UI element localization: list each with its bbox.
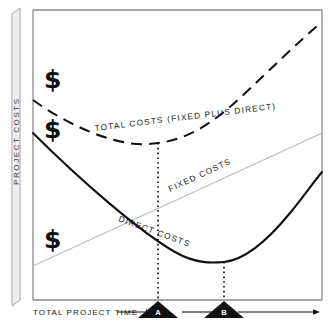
dollar-sign-bottom: $ [44,225,61,254]
dollar-sign-middle: $ [44,115,61,144]
marker-a-letter: A [155,308,161,317]
dollar-sign-top: $ [44,65,61,94]
y-axis-label: PROJECT COSTS [12,97,21,185]
marker-b-letter: B [221,308,227,317]
cost-vs-time-chart: PROJECT COSTS TOTAL COSTS (FIXED PLUS DI… [0,0,333,325]
chart-background [0,0,333,325]
